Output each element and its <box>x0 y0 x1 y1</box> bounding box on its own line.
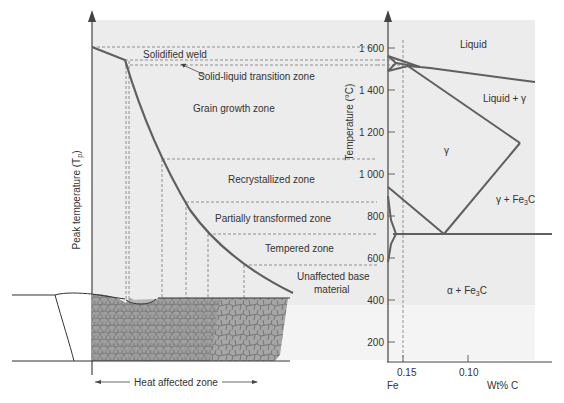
y-tick-1200: 1 200 <box>359 127 384 138</box>
zone-label-partially-transformed: Partially transformed zone <box>215 213 332 224</box>
heat-affected-zone-indicator: Heat affected zone <box>95 377 258 388</box>
temp-axis-arrow-icon <box>384 10 392 22</box>
zone-label-solidified-weld: Solidified weld <box>143 49 207 60</box>
y-tick-400: 400 <box>367 295 384 306</box>
x-tick-0.10: 0.10 <box>459 367 479 378</box>
heat-affected-zone-label: Heat affected zone <box>134 377 218 388</box>
zone-label-unaffected-line1: Unaffected base <box>297 271 370 282</box>
y-tick-1400: 1 400 <box>359 85 384 96</box>
zone-label-recrystallized: Recrystallized zone <box>228 174 315 185</box>
weld-cross-section <box>12 293 290 361</box>
y-tick-800: 800 <box>367 211 384 222</box>
zone-label-solid-liquid: Solid-liquid transition zone <box>198 71 315 82</box>
region-alpha-fe3c: α + Fe3C <box>447 285 487 297</box>
temperature-axis-label: Temperature (°C) <box>344 84 355 161</box>
region-liquid: Liquid <box>460 39 487 50</box>
arrow-left-icon <box>95 380 101 384</box>
x-axis-label: Wt% C <box>487 380 518 391</box>
y-axis-arrow-icon <box>88 10 96 22</box>
weld-phase-diagram: Solidified weld Solid-liquid transition … <box>0 0 564 403</box>
zone-label-grain-growth: Grain growth zone <box>193 103 275 114</box>
region-gamma: γ <box>444 145 449 156</box>
y-tick-200: 200 <box>367 337 384 348</box>
zone-label-unaffected-line2: material <box>314 284 350 295</box>
y-tick-1600: 1 600 <box>359 43 384 54</box>
region-gamma-fe3c: γ + Fe3C <box>496 194 535 206</box>
y-tick-600: 600 <box>367 253 384 264</box>
plot-background <box>92 20 535 305</box>
zone-label-tempered: Tempered zone <box>265 243 334 254</box>
arrow-right-icon <box>252 380 258 384</box>
x-tick-0.15: 0.15 <box>397 367 417 378</box>
x-origin-fe: Fe <box>387 380 399 391</box>
peak-temperature-axis-label: Peak temperature (Tp) <box>71 151 84 250</box>
y-tick-1000: 1 000 <box>359 169 384 180</box>
region-liquid-gamma: Liquid + γ <box>483 93 526 104</box>
